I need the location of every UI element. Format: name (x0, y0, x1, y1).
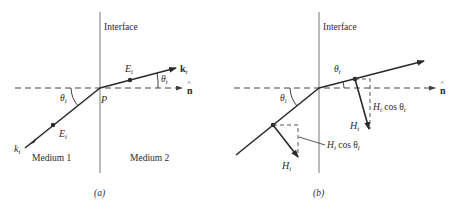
interface-label-b: Interface (323, 22, 357, 32)
panel-b: Interface n ^ θi θt Hi Hi cos θi Ht Ht c… (234, 12, 446, 199)
h-t-cos-theta-t-label: Ht cos θt (372, 102, 407, 114)
h-i-cos-leader-line (299, 137, 325, 145)
refraction-figure: Interface n ^ θi θt P Et Ei ki kt Medium… (0, 0, 458, 210)
k-transmitted-label: kt (180, 63, 189, 76)
e-transmitted-label: Et (124, 63, 134, 76)
e-incident-label: Ei (58, 128, 67, 141)
medium-1-label: Medium 1 (32, 153, 72, 163)
e-incident-dot (51, 123, 55, 127)
theta-i-label-b: θi (280, 93, 287, 105)
caption-b: (b) (313, 188, 324, 199)
h-transmitted-label: Ht (349, 120, 360, 133)
point-p-label: P (100, 94, 107, 105)
panel-a: Interface n ^ θi θt P Et Ei ki kt Medium… (14, 12, 193, 199)
theta-t-label-a: θt (161, 74, 169, 86)
k-incident-label: ki (14, 143, 20, 156)
theta-t-arc-b (343, 82, 344, 88)
theta-i-label-a: θi (60, 93, 67, 105)
theta-t-label-b: θt (334, 64, 342, 76)
theta-i-arc-b (290, 88, 297, 106)
h-incident-label: Hi (281, 160, 291, 173)
interface-label-a: Interface (104, 22, 138, 32)
theta-t-arc-a (157, 73, 158, 88)
incident-ray-b (236, 88, 319, 155)
h-i-cos-theta-i-label: Hi cos θi (326, 140, 360, 152)
caption-a: (a) (94, 188, 105, 199)
e-transmitted-dot (128, 78, 132, 82)
theta-i-arc-a (71, 88, 78, 106)
h-incident-vector (273, 125, 298, 157)
medium-2-label: Medium 2 (130, 153, 170, 163)
